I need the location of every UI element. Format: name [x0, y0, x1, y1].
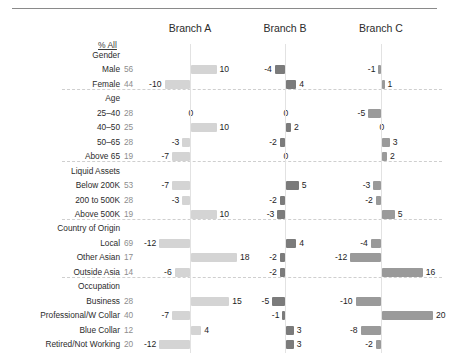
group-label: Liquid Assets — [0, 166, 120, 176]
bar-value-branch-2: 4 — [299, 238, 304, 248]
zero-axis-branch-1 — [190, 44, 191, 353]
row-label: Professional/W Collar — [0, 310, 120, 320]
bar-branch-1 — [172, 181, 190, 190]
bar-value-branch-3: -12 — [335, 252, 347, 262]
bar-branch-2 — [272, 297, 285, 306]
bar-value-branch-3: -4 — [360, 238, 368, 248]
group-separator — [62, 277, 442, 278]
bar-value-branch-1: -12 — [144, 339, 156, 349]
bar-value-branch-2: -2 — [269, 252, 277, 262]
bar-value-branch-2: -2 — [269, 267, 277, 277]
row-pct-all: 40 — [124, 310, 140, 320]
bar-value-branch-1: 10 — [220, 122, 230, 132]
row-pct-all: 14 — [124, 267, 140, 277]
bar-value-branch-1: 10 — [220, 209, 230, 219]
group-label: Gender — [0, 50, 120, 60]
bar-branch-3 — [371, 239, 381, 248]
bar-value-branch-3: -2 — [365, 195, 373, 205]
bar-value-branch-2: -3 — [267, 209, 275, 219]
bar-branch-2 — [286, 123, 291, 132]
bar-branch-1 — [191, 326, 201, 335]
bar-value-branch-3: -10 — [340, 296, 352, 306]
row-pct-all: 28 — [124, 296, 140, 306]
group-separator — [62, 161, 442, 162]
bar-value-branch-2: 2 — [294, 122, 299, 132]
row-label: 50–65 — [0, 137, 120, 147]
bar-branch-3 — [382, 138, 390, 147]
row-label: 40–50 — [0, 122, 120, 132]
bar-branch-2 — [275, 65, 285, 74]
group-label: Age — [0, 93, 120, 103]
bar-branch-3 — [382, 152, 387, 161]
bar-value-branch-2: 3 — [297, 325, 302, 335]
bar-value-branch-3: 3 — [393, 137, 398, 147]
pct-all-header: % All — [98, 40, 117, 50]
row-pct-all: 44 — [124, 79, 140, 89]
bar-branch-3 — [382, 210, 395, 219]
bar-branch-1 — [175, 268, 190, 277]
bar-value-branch-3: -1 — [368, 64, 376, 74]
row-label: Male — [0, 64, 120, 74]
bar-branch-2 — [286, 340, 294, 349]
bar-branch-1 — [172, 152, 190, 161]
bar-value-branch-2: -4 — [264, 64, 272, 74]
bar-branch-1 — [182, 196, 190, 205]
bar-value-branch-1: -6 — [164, 267, 172, 277]
row-pct-all: 12 — [124, 325, 140, 335]
bar-branch-1 — [182, 138, 190, 147]
bar-branch-3 — [361, 326, 381, 335]
bar-branch-1 — [191, 210, 217, 219]
row-label: Below 200K — [0, 180, 120, 190]
bar-branch-1 — [191, 123, 217, 132]
group-label: Country of Origin — [0, 223, 120, 233]
bar-value-branch-3: -5 — [358, 108, 366, 118]
bar-branch-2 — [286, 326, 294, 335]
row-pct-all: 25 — [124, 122, 140, 132]
bar-branch-1 — [191, 65, 217, 74]
zero-axis-branch-2 — [285, 44, 286, 353]
row-pct-all: 19 — [124, 151, 140, 161]
bar-branch-3 — [382, 311, 433, 320]
bar-value-branch-3: 1 — [388, 79, 393, 89]
bar-value-branch-2: -1 — [272, 310, 280, 320]
bar-value-branch-1: 10 — [220, 64, 230, 74]
bar-branch-3 — [382, 268, 423, 277]
row-pct-all: 28 — [124, 108, 140, 118]
bar-value-branch-2: -5 — [262, 296, 270, 306]
bar-branch-3 — [373, 181, 381, 190]
bar-branch-1 — [165, 80, 191, 89]
bar-value-branch-2: 3 — [297, 339, 302, 349]
bar-branch-1 — [191, 253, 237, 262]
bar-value-branch-2: 4 — [299, 79, 304, 89]
bar-value-branch-2: 5 — [302, 180, 307, 190]
bar-value-branch-1: -7 — [161, 180, 169, 190]
row-pct-all: 20 — [124, 339, 140, 349]
bar-value-branch-1: -10 — [149, 79, 161, 89]
row-label: Other Asian — [0, 252, 120, 262]
zero-axis-branch-3 — [381, 44, 382, 353]
bar-branch-1 — [191, 297, 229, 306]
bar-branch-3 — [382, 80, 385, 89]
bar-branch-2 — [286, 239, 296, 248]
group-separator — [62, 219, 442, 220]
row-label: Retired/Not Working — [0, 339, 120, 349]
bar-value-branch-3: -3 — [363, 180, 371, 190]
bar-branch-1 — [159, 340, 190, 349]
row-pct-all: 28 — [124, 137, 140, 147]
bar-value-branch-3: 5 — [398, 209, 403, 219]
bar-branch-2 — [277, 210, 285, 219]
bar-branch-1 — [159, 239, 190, 248]
bar-value-branch-3: 2 — [390, 151, 395, 161]
row-label: Business — [0, 296, 120, 306]
bar-branch-2 — [286, 181, 299, 190]
bar-value-branch-2: -2 — [269, 195, 277, 205]
bar-value-branch-1: 18 — [240, 252, 250, 262]
bar-value-branch-3: -8 — [350, 325, 358, 335]
top-divider — [12, 8, 437, 9]
row-label: Above 65 — [0, 151, 120, 161]
row-pct-all: 28 — [124, 195, 140, 205]
group-separator — [62, 89, 442, 90]
bar-value-branch-3: 16 — [426, 267, 436, 277]
group-label: Occupation — [0, 281, 120, 291]
